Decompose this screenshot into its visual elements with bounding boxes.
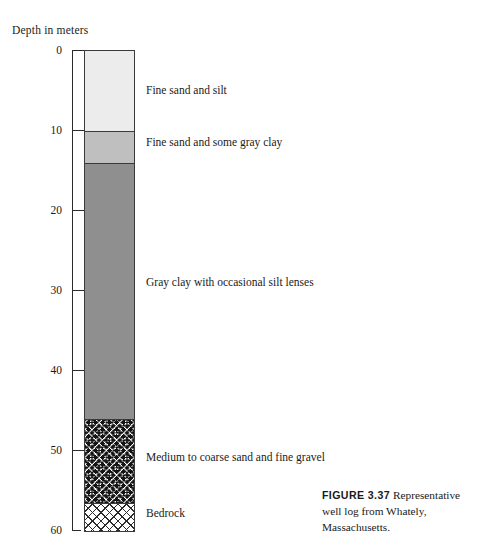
figure-caption: FIGURE 3.37Representative well log from …	[322, 487, 482, 535]
layer-fine-sand-and-silt	[85, 51, 134, 131]
axis-tick-label: 60	[22, 525, 62, 537]
layer-boundary	[85, 163, 134, 164]
layer-boundary	[85, 503, 134, 504]
layer-annotation-medium-to-coarse-sand-and-fine-gravel: Medium to coarse sand and fine gravel	[146, 452, 325, 464]
layer-annotation-gray-clay-with-silt-lenses: Gray clay with occasional silt lenses	[146, 277, 314, 289]
layer-annotation-fine-sand-and-some-gray-clay: Fine sand and some gray clay	[146, 137, 282, 149]
axis-tick-label: 40	[22, 365, 62, 377]
axis-tick-label: 10	[22, 125, 62, 137]
layer-annotation-fine-sand-and-silt: Fine sand and silt	[146, 85, 227, 97]
lithology-column	[84, 50, 135, 532]
well-log-figure: Depth in meters 0 10 20 30 40 50 60 Fine…	[0, 0, 487, 549]
layer-medium-to-coarse-sand-and-fine-gravel	[85, 419, 134, 503]
layer-boundary	[85, 419, 134, 420]
axis-title: Depth in meters	[12, 24, 88, 36]
layer-boundary	[85, 131, 134, 132]
layer-bedrock	[85, 503, 134, 531]
layer-gray-clay-with-silt-lenses	[85, 163, 134, 419]
axis-tick-label: 50	[22, 445, 62, 457]
axis-tick-label: 20	[22, 205, 62, 217]
figure-number: FIGURE 3.37	[322, 489, 390, 501]
layer-fine-sand-and-some-gray-clay	[85, 131, 134, 163]
axis-tick-label: 30	[22, 285, 62, 297]
axis-tick-label: 0	[22, 45, 62, 57]
layer-annotation-bedrock: Bedrock	[146, 508, 185, 520]
axis-cap-bottom	[72, 530, 81, 531]
